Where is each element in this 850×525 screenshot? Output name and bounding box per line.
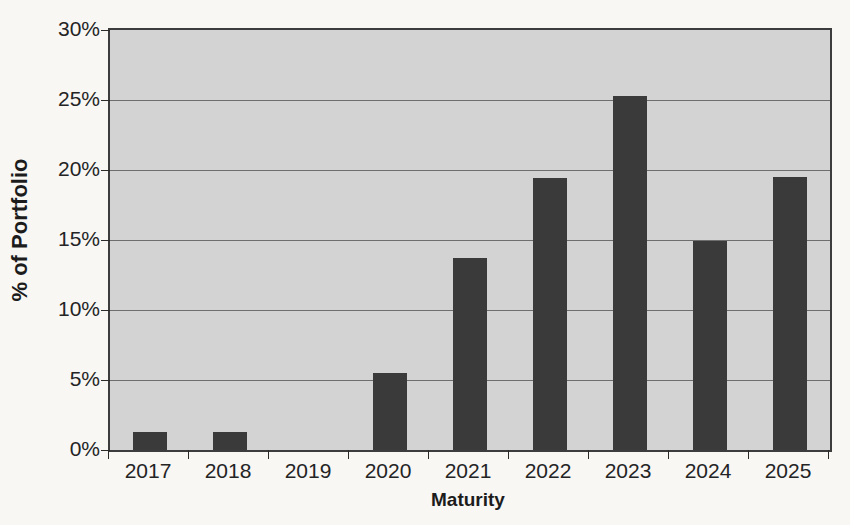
x-axis-tickmark [668,450,669,459]
y-axis-tickmark [101,310,110,311]
x-axis-tick-label: 2021 [445,459,492,482]
x-axis-tick-label: 2020 [365,459,412,482]
bar [693,241,727,450]
bar [453,258,487,450]
x-axis-tick-label: 2024 [685,459,732,482]
y-axis-tick-label: 15% [34,228,100,249]
x-axis-tickmark [108,450,109,459]
x-axis-tickmark [428,450,429,459]
bar [773,177,807,450]
y-axis-tick-label: 0% [34,438,100,459]
bar [133,432,167,450]
x-axis-tick-label: 2019 [285,459,332,482]
y-axis-tick-labels: 0%5%10%15%20%25%30% [34,0,100,460]
y-axis-tickmark [101,100,110,101]
x-axis-tick-label: 2018 [205,459,252,482]
plot-area [108,28,832,452]
y-axis-tickmark [101,170,110,171]
x-axis-tick-labels: 201720182019202020212022202320242025 [108,459,828,489]
bars-layer [110,30,830,450]
y-axis-tickmark [101,240,110,241]
bar [373,373,407,450]
y-axis-tick-label: 25% [34,88,100,109]
bar-chart: % of Portfolio 0%5%10%15%20%25%30% 20172… [0,0,850,525]
x-axis-tick-label: 2022 [525,459,572,482]
x-axis-title: Maturity [108,489,828,511]
y-axis-title-label: % of Portfolio [7,159,33,302]
bar [533,178,567,450]
y-axis-tick-label: 30% [34,18,100,39]
y-axis-tick-label: 20% [34,158,100,179]
x-axis-tick-label: 2025 [765,459,812,482]
bar [213,432,247,450]
x-axis-tickmark [748,450,749,459]
x-axis-tick-label: 2017 [125,459,172,482]
x-axis-tickmark [828,450,829,459]
x-axis-tickmark [508,450,509,459]
x-axis-tickmark [348,450,349,459]
bar [613,96,647,450]
x-axis-tickmark [188,450,189,459]
y-axis-tick-label: 10% [34,298,100,319]
x-axis-tickmark [588,450,589,459]
y-axis-tickmark [101,380,110,381]
y-axis-tick-label: 5% [34,368,100,389]
x-axis-tickmark [268,450,269,459]
x-axis-tick-label: 2023 [605,459,652,482]
y-axis-tickmark [101,30,110,31]
